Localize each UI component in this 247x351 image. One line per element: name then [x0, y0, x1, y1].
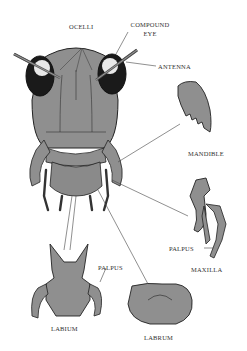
label-mandible: MANDIBLE [188, 151, 224, 158]
mandible-right-in-situ [102, 140, 122, 186]
label-labrum: LABRUM [144, 335, 173, 342]
labrum [128, 283, 192, 324]
label-palpus-maxilla: PALPUS [169, 246, 194, 253]
label-ocelli: OCELLI [69, 24, 93, 31]
label-compound-eye-line2: EYE [128, 31, 172, 38]
label-compound-eye: COMPOUND EYE [128, 22, 172, 37]
labium [46, 244, 90, 316]
mandible [178, 82, 211, 133]
label-antenna: ANTENNA [158, 64, 191, 71]
label-maxilla: MAXILLA [191, 267, 222, 274]
labrum-in-situ [50, 162, 102, 196]
label-palpus-labium: PALPUS [98, 265, 123, 272]
label-compound-eye-line1: COMPOUND [128, 22, 172, 29]
diagram-canvas [0, 0, 247, 351]
mandible-left-in-situ [30, 140, 50, 186]
label-labium: LABIUM [51, 326, 78, 333]
